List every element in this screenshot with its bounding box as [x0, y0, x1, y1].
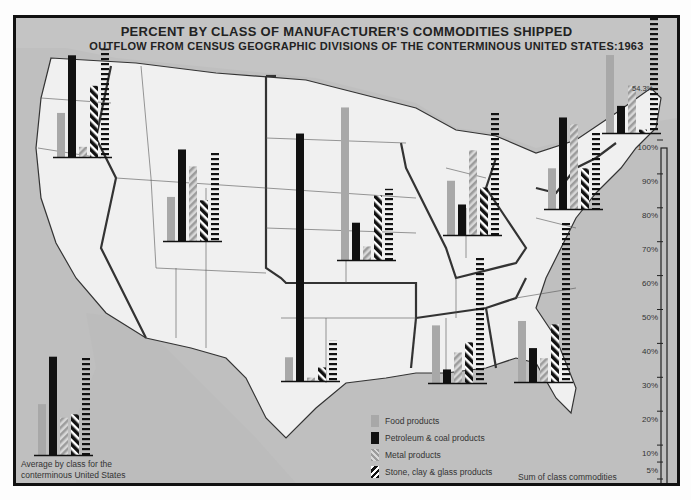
legend: Food products Petroleum & coal products … — [371, 412, 492, 486]
other-bar — [82, 357, 90, 455]
legend-item-stone: Stone, clay & glass products — [371, 463, 492, 480]
petroleum-bar — [443, 369, 451, 383]
us-map: 54.3% — [16, 18, 677, 483]
stone-bar — [639, 130, 647, 133]
petroleum-bar — [178, 149, 186, 241]
other-bar — [476, 258, 484, 383]
metal-swatch-icon — [371, 449, 379, 461]
petroleum-bar — [458, 204, 466, 235]
food-bar — [606, 55, 614, 133]
tick-80: 80% — [630, 211, 658, 220]
stone-bar — [374, 196, 382, 260]
tick-30: 30% — [630, 381, 658, 390]
other-bar — [592, 131, 600, 209]
food-bar — [285, 357, 293, 381]
petroleum-bar — [352, 223, 360, 260]
food-bar — [341, 107, 349, 260]
other-bar — [385, 189, 393, 260]
stone-bar — [90, 86, 98, 157]
food-bar — [548, 168, 556, 209]
map-frame: 54.3% PERCENT BY CLASS OF MANUFACTURER'S… — [13, 15, 680, 486]
tick-5: 5% — [630, 466, 658, 475]
tick-50: 50% — [630, 313, 658, 322]
other-bar — [562, 223, 570, 382]
legend-item-petroleum: Petroleum & coal products — [371, 429, 492, 446]
petroleum-swatch-icon — [371, 432, 379, 444]
tick-70: 70% — [630, 245, 658, 254]
petroleum-bar — [296, 134, 304, 381]
metal-bar — [469, 150, 477, 235]
metal-bar — [540, 358, 548, 382]
metal-bar — [570, 124, 578, 209]
average-note: Average by class for the conterminous Un… — [21, 459, 125, 481]
petroleum-bar — [68, 55, 76, 157]
food-bar — [38, 404, 46, 455]
sum-note: Sum of class commodities equal to 100% f… — [518, 472, 624, 486]
stone-swatch-icon — [371, 466, 379, 478]
stone-bar — [480, 188, 488, 235]
stone-bar — [200, 200, 208, 241]
metal-bar — [189, 166, 197, 241]
tick-60: 60% — [630, 279, 658, 288]
legend-item-food: Food products — [371, 412, 492, 429]
legend-item-other: All other products — [371, 480, 492, 486]
tick-20: 20% — [630, 415, 658, 424]
ne-other-value-label: 54.3% — [632, 84, 654, 93]
tick-40: 40% — [630, 347, 658, 356]
food-bar — [57, 113, 65, 157]
food-swatch-icon — [371, 415, 379, 427]
other-bar — [491, 113, 499, 235]
food-bar — [167, 197, 175, 241]
chart-subtitle: OUTFLOW FROM CENSUS GEOGRAPHIC DIVISIONS… — [16, 40, 677, 52]
tick-90: 90% — [630, 177, 658, 186]
other-bar — [329, 340, 337, 381]
tick-0: 0 — [630, 483, 658, 486]
metal-bar — [363, 246, 371, 260]
food-bar — [432, 325, 440, 383]
petroleum-bar — [559, 117, 567, 209]
stone-bar — [71, 414, 79, 455]
stone-bar — [551, 324, 559, 382]
petroleum-bar — [49, 357, 57, 455]
chart-title: PERCENT BY CLASS OF MANUFACTURER'S COMMO… — [16, 24, 677, 39]
metal-bar — [454, 352, 462, 383]
stone-bar — [318, 367, 326, 381]
legend-item-metal: Metal products — [371, 446, 492, 463]
other-bar — [101, 49, 109, 157]
stone-bar — [581, 168, 589, 209]
other-bar — [211, 153, 219, 241]
other-swatch-icon — [371, 483, 379, 487]
stone-bar — [465, 342, 473, 383]
tick-10: 10% — [630, 449, 658, 458]
metal-bar — [307, 378, 315, 381]
metal-bar — [79, 147, 87, 157]
food-bar — [518, 321, 526, 382]
tick-100: 100% — [630, 143, 658, 152]
petroleum-bar — [529, 348, 537, 382]
petroleum-bar — [617, 106, 625, 133]
metal-bar — [60, 418, 68, 455]
food-bar — [447, 181, 455, 235]
